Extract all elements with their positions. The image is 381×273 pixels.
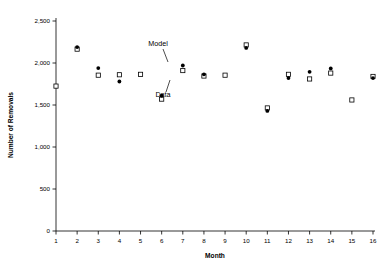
y-tick-label: 1,500	[35, 101, 51, 108]
x-tick-label: 10	[243, 237, 250, 244]
y-axis-title: Number of Removals	[7, 92, 14, 158]
x-tick-label: 13	[306, 237, 313, 244]
data-point-model	[265, 109, 269, 113]
data-point-data	[350, 98, 354, 102]
y-tick-label: 500	[40, 185, 51, 192]
x-tick-label: 2	[75, 237, 79, 244]
data-point-model	[308, 70, 312, 74]
data-point-model	[329, 67, 333, 71]
data-point-model	[202, 72, 206, 76]
x-tick-label: 9	[223, 237, 227, 244]
annotation-label: Data	[155, 90, 170, 99]
x-tick-label: 4	[118, 237, 122, 244]
data-point-data	[54, 84, 58, 88]
y-tick-label: 2,500	[35, 17, 51, 24]
data-point-data	[308, 77, 312, 81]
x-axis: 12345678910111213141516	[54, 231, 377, 244]
x-axis-ticks: 12345678910111213141516	[54, 231, 377, 244]
y-tick-label: 2,000	[35, 59, 51, 66]
x-tick-label: 1	[54, 237, 58, 244]
data-point-model	[244, 46, 248, 50]
x-tick-label: 12	[285, 237, 292, 244]
y-tick-label: 0	[47, 227, 51, 234]
scatter-plot: 05001,0001,5002,0002,500 123456789101112…	[0, 0, 381, 273]
x-tick-label: 5	[139, 237, 143, 244]
data-point-model	[371, 76, 375, 80]
y-axis-ticks: 05001,0001,5002,0002,500	[35, 17, 56, 234]
series-model-markers	[75, 45, 375, 113]
data-point-data	[138, 72, 142, 76]
x-axis-title: Month	[205, 252, 225, 259]
data-point-model	[118, 80, 122, 84]
x-tick-label: 16	[370, 237, 377, 244]
x-tick-label: 7	[181, 237, 185, 244]
series-data-markers	[54, 43, 375, 110]
data-point-model	[75, 45, 79, 49]
data-point-model	[96, 66, 100, 70]
data-point-data	[223, 73, 227, 77]
chart-annotations: ModelData	[148, 39, 170, 99]
data-point-data	[181, 68, 185, 72]
data-point-model	[287, 76, 291, 80]
data-point-data	[117, 73, 121, 77]
x-tick-label: 3	[97, 237, 101, 244]
y-axis: 05001,0001,5002,0002,500	[35, 17, 56, 234]
data-point-data	[96, 73, 100, 77]
chart-container: 05001,0001,5002,0002,500 123456789101112…	[0, 0, 381, 273]
x-tick-label: 8	[202, 237, 206, 244]
x-tick-label: 6	[160, 237, 164, 244]
x-tick-label: 11	[264, 237, 271, 244]
x-tick-label: 14	[327, 237, 334, 244]
annotation-leader-line	[163, 49, 168, 62]
annotation-label: Model	[148, 39, 168, 48]
data-point-data	[286, 72, 290, 76]
y-tick-label: 1,000	[35, 143, 51, 150]
x-tick-label: 15	[348, 237, 355, 244]
data-point-data	[329, 71, 333, 75]
data-point-model	[181, 64, 185, 68]
